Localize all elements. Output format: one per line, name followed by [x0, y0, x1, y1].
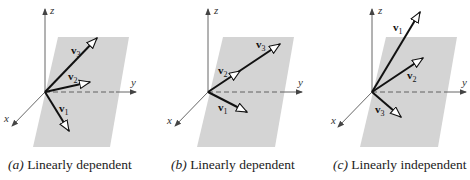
- z-label: z: [49, 4, 55, 16]
- caption-tag: (a): [8, 157, 24, 172]
- x-label: x: [330, 114, 336, 126]
- vector-figure: z y x v3 v2 v1 z y x v3 v2 v1 z y x: [0, 0, 470, 180]
- z-label: z: [377, 4, 383, 16]
- x-axis: [175, 92, 208, 126]
- label-v1: v1: [393, 21, 403, 36]
- y-label: y: [130, 76, 136, 88]
- panel-a: z y x v3 v2 v1: [3, 4, 136, 147]
- caption-tag: (c): [333, 157, 348, 172]
- panel-c: z y x v1 v2 v3: [330, 4, 467, 147]
- caption-text: Linearly dependent: [190, 157, 295, 172]
- caption-text: Linearly dependent: [27, 157, 132, 172]
- caption-a: (a) Linearly dependent: [8, 157, 132, 173]
- caption-c: (c) Linearly independent: [333, 157, 466, 173]
- y-label: y: [297, 76, 303, 88]
- z-label: z: [213, 4, 219, 16]
- caption-tag: (b): [171, 157, 187, 172]
- y-label: y: [461, 76, 467, 88]
- caption-text: Linearly independent: [351, 157, 466, 172]
- panel-b: z y x v3 v2 v1: [166, 4, 303, 147]
- x-label: x: [166, 114, 172, 126]
- caption-b: (b) Linearly dependent: [171, 157, 295, 173]
- x-label: x: [3, 112, 9, 124]
